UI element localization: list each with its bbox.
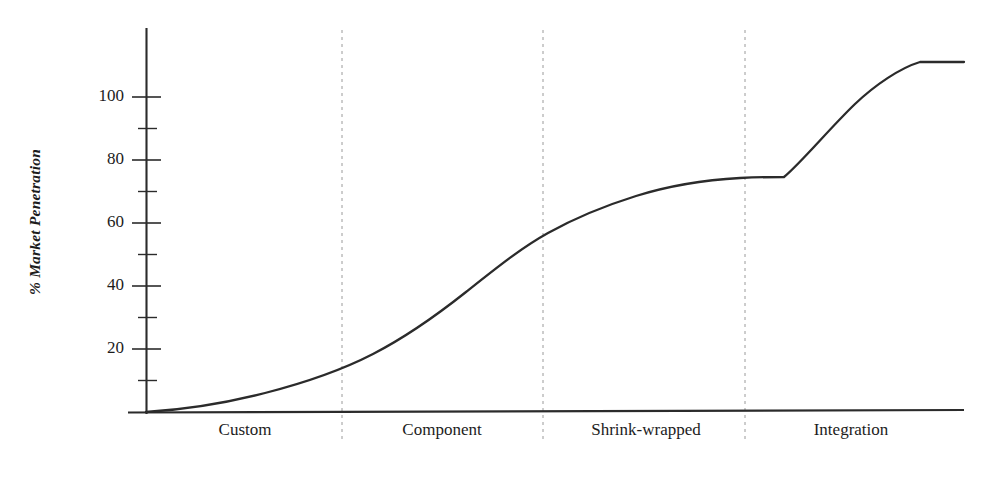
y-tick-label-20: 20 <box>62 338 124 358</box>
chart-canvas <box>0 0 1003 479</box>
market-penetration-chart: % Market Penetration 100 80 60 40 20 Cus… <box>0 0 1003 479</box>
x-category-label-custom: Custom <box>180 420 310 440</box>
x-axis-line <box>128 410 964 413</box>
data-curve <box>146 62 964 412</box>
y-tick-label-80: 80 <box>62 149 124 169</box>
y-axis-title: % Market Penetration <box>26 72 44 372</box>
data-curve-market-penetration <box>146 244 543 412</box>
x-category-label-integration: Integration <box>786 420 916 440</box>
x-category-label-shrink-wrapped: Shrink-wrapped <box>576 420 716 440</box>
y-tick-label-40: 40 <box>62 275 124 295</box>
y-tick-label-60: 60 <box>62 212 124 232</box>
y-tick-label-100: 100 <box>62 86 124 106</box>
market-penetration-line <box>146 62 964 412</box>
x-category-label-component: Component <box>377 420 507 440</box>
